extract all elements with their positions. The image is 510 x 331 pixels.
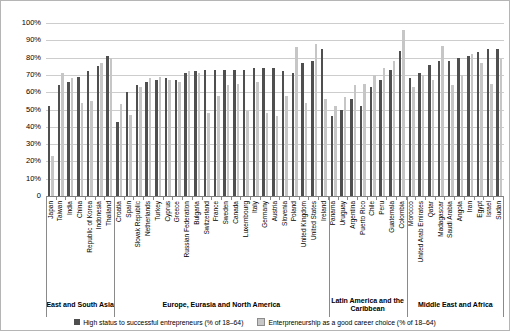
region-label: Latin America and the Caribbean	[329, 297, 407, 314]
chart-figure: 100%90%80%70%60%50%40%30%20%10%0 JapanTa…	[0, 0, 510, 331]
country-label-slot: United Arab Emirates	[417, 201, 427, 291]
country-label: Qatar	[428, 201, 435, 217]
country-label-slot: Thailand	[105, 201, 115, 291]
country-label-slot: Croatia	[114, 201, 124, 291]
legend-swatch-high_status	[74, 319, 80, 325]
bar-career-choice	[451, 85, 454, 196]
bar-high-status	[331, 116, 334, 196]
bar-high-status	[194, 71, 197, 196]
country-label: Slovak Republic	[135, 201, 142, 248]
country-label-slot: Israel	[485, 201, 495, 291]
bar-group	[290, 23, 300, 196]
bar-career-choice	[120, 104, 123, 196]
bar-career-choice	[393, 61, 396, 196]
bar-group	[426, 23, 436, 196]
bar-high-status	[126, 92, 129, 196]
country-label-slot: France	[212, 201, 222, 291]
y-axis-label-10: 10%	[1, 175, 41, 183]
country-label-slot: Slovak Republic	[134, 201, 144, 291]
bar-career-choice	[305, 103, 308, 196]
bar-group	[387, 23, 397, 196]
axis-tick	[85, 197, 95, 200]
bar-high-status	[379, 80, 382, 196]
bar-career-choice	[51, 156, 54, 196]
bar-group	[222, 23, 232, 196]
legend-label: High status to successful entrepreneurs …	[83, 319, 243, 326]
axis-tick	[163, 197, 173, 200]
country-label-slot: United Kingdom	[300, 201, 310, 291]
country-label: Sudan	[496, 201, 503, 220]
axis-tick	[318, 197, 328, 200]
country-label: Germany	[262, 201, 269, 228]
bar-high-status	[58, 85, 61, 196]
country-label-slot: Canada	[231, 201, 241, 291]
bar-high-status	[467, 56, 470, 196]
country-label-slot: Chile	[368, 201, 378, 291]
bar-group	[241, 23, 251, 196]
axis-tick	[347, 197, 357, 200]
country-label-slot: Angola	[456, 201, 466, 291]
bar-group	[56, 23, 66, 196]
y-axis-label-70: 70%	[1, 71, 41, 79]
bar-group	[192, 23, 202, 196]
axis-tick	[250, 197, 260, 200]
country-label-slot: Sweden	[222, 201, 232, 291]
y-axis-label-30: 30%	[1, 140, 41, 148]
bar-career-choice	[480, 63, 483, 196]
axis-tick	[75, 197, 85, 200]
bar-high-status	[457, 58, 460, 196]
bar-group	[270, 23, 280, 196]
country-label-slot: Republic of Korea	[85, 201, 95, 291]
region-group-4: Middle East and Africa	[407, 293, 504, 317]
bar-career-choice	[266, 113, 269, 196]
bar-career-choice	[383, 68, 386, 196]
country-label: Thailand	[106, 201, 113, 226]
country-label-slot: Madagascar	[436, 201, 446, 291]
country-label-slot: Japan	[46, 201, 56, 291]
country-label: Chile	[369, 201, 376, 216]
country-label-slot: Spain	[124, 201, 134, 291]
bar-high-status	[438, 61, 441, 196]
country-label: India	[67, 201, 74, 215]
country-label-slot: Qatar	[426, 201, 436, 291]
country-label: Puerto Rico	[360, 201, 367, 235]
country-label: Uruguay	[340, 201, 347, 226]
country-label-slot: Luxembourg	[241, 201, 251, 291]
country-label: Switzerland	[204, 201, 211, 235]
country-label: Colombia	[399, 201, 406, 228]
bar-high-status	[253, 68, 256, 196]
axis-tick	[202, 197, 212, 200]
axis-tick	[396, 197, 406, 200]
country-label-slot: Panama	[329, 201, 339, 291]
country-label: Spain	[126, 201, 133, 218]
bar-high-status	[106, 56, 109, 196]
bar-group	[231, 23, 241, 196]
bar-career-choice	[334, 106, 337, 196]
country-label: France	[213, 201, 220, 221]
country-label: Taiwan	[57, 201, 64, 221]
bar-career-choice	[295, 47, 298, 196]
bar-high-status	[243, 70, 246, 196]
axis-tick	[444, 197, 454, 200]
bar-career-choice	[422, 75, 425, 196]
group-separator	[329, 196, 330, 317]
bar-group	[329, 23, 339, 196]
axis-tick	[95, 197, 105, 200]
legend-label: Enterpreneurship as a good career choice…	[268, 319, 435, 326]
bar-group	[368, 23, 378, 196]
bar-high-status	[136, 85, 139, 196]
bar-group	[66, 23, 76, 196]
bar-group	[144, 23, 154, 196]
bar-group	[183, 23, 193, 196]
country-label: China	[77, 201, 84, 218]
country-label-slot: Taiwan	[56, 201, 66, 291]
bar-career-choice	[324, 99, 327, 196]
country-label: Sweden	[223, 201, 230, 225]
bar-career-choice	[110, 58, 113, 196]
bar-career-choice	[188, 71, 191, 196]
bar-career-choice	[139, 87, 142, 196]
axis-tick	[357, 197, 367, 200]
bar-career-choice	[402, 30, 405, 196]
country-label: United States	[311, 201, 318, 240]
axis-tick	[182, 197, 192, 200]
